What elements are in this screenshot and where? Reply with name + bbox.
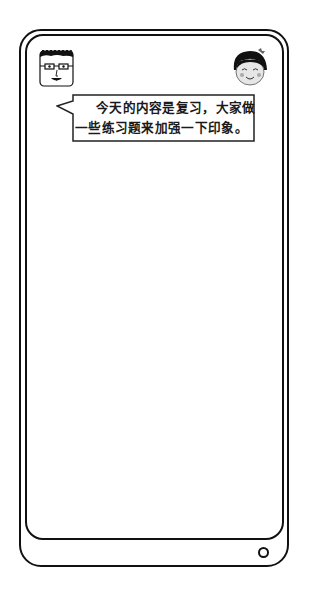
boy-avatar-icon bbox=[38, 48, 76, 88]
speech-line-2: 一些练习题来加强一下印象。 bbox=[75, 118, 253, 138]
speech-line-1: 今天的内容是复习，大家做 bbox=[75, 98, 253, 118]
girl-avatar-icon bbox=[230, 46, 270, 88]
home-button-icon[interactable] bbox=[258, 547, 269, 558]
speech-bubble-text: 今天的内容是复习，大家做 一些练习题来加强一下印象。 bbox=[75, 98, 253, 138]
